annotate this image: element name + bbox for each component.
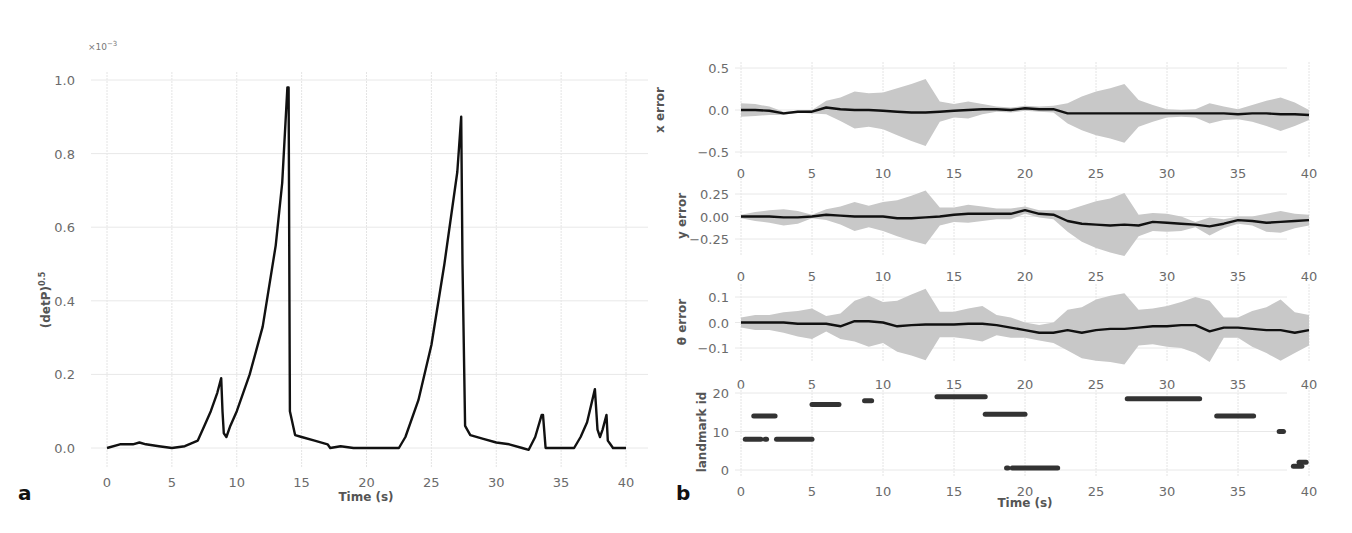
x-tick-label: 40 [1301, 377, 1318, 392]
panel-a-letter: a [18, 481, 32, 505]
x-tick-label: 10 [228, 475, 245, 490]
panel-a-tick-labels: 05101520253035400.00.20.40.60.81.0 [54, 73, 634, 490]
x-tick-label: 30 [1159, 269, 1176, 284]
panel-b-chart: 05101520253035400.50.0−0.505101520253035… [653, 61, 1317, 510]
x-tick-label: 5 [168, 475, 176, 490]
x-tick-label: 25 [1088, 484, 1105, 499]
panel-a-scale-note: ×10−3 [88, 40, 117, 52]
panel-b-theta-error-label: θ error [675, 299, 689, 346]
x-tick-label: 40 [618, 475, 635, 490]
panel-b-landmark-id-label: landmark id [695, 392, 709, 473]
y-tick-label: 10 [712, 425, 729, 440]
x-tick-label: 40 [1301, 269, 1318, 284]
y-tick-label: 1.0 [54, 73, 75, 88]
y-tick-label: 0.0 [708, 316, 729, 331]
x-tick-label: 35 [1230, 484, 1247, 499]
x-tick-label: 10 [875, 269, 892, 284]
x-tick-label: 5 [808, 377, 816, 392]
x-tick-label: 25 [1088, 269, 1105, 284]
panel-b-x-error-label: x error [653, 87, 667, 133]
x-tick-label: 35 [553, 475, 570, 490]
y-tick-label: 0.00 [700, 210, 729, 225]
x-tick-label: 30 [488, 475, 505, 490]
y-tick-label: 0.6 [54, 220, 75, 235]
x-tick-label: 35 [1230, 377, 1247, 392]
y-tick-label: 0 [721, 463, 729, 478]
x-tick-label: 40 [1301, 484, 1318, 499]
subplot-theta-error: 05101520253035400.10.0−0.1 [697, 284, 1317, 392]
y-tick-label: 0.25 [700, 187, 729, 202]
x-tick-label: 20 [1017, 269, 1034, 284]
x-tick-label: 0 [737, 269, 745, 284]
panel-a-grid [91, 72, 648, 468]
x-tick-label: 35 [1230, 269, 1247, 284]
x-tick-label: 10 [875, 377, 892, 392]
x-tick-label: 5 [808, 484, 816, 499]
panel-a-y-axis-label: (detP)0.5 [38, 271, 53, 328]
x-tick-label: 30 [1159, 377, 1176, 392]
figure: 05101520253035400.00.20.40.60.81.0 ×10−3… [0, 0, 1352, 533]
y-tick-label: 0.2 [54, 367, 75, 382]
panel-b-x-axis-label: Time (s) [997, 496, 1052, 510]
x-tick-label: 25 [423, 475, 440, 490]
x-tick-label: 20 [1017, 377, 1034, 392]
subplot-x-error: 05101520253035400.50.0−0.5 [697, 61, 1317, 181]
x-tick-label: 0 [103, 475, 111, 490]
x-tick-label: 0 [737, 377, 745, 392]
y-tick-label: −0.1 [697, 341, 729, 356]
panel-a-chart: 05101520253035400.00.20.40.60.81.0 ×10−3… [18, 40, 648, 505]
x-tick-label: 15 [293, 475, 310, 490]
y-tick-label: 0.0 [708, 103, 729, 118]
subplot-y-error: 05101520253035400.250.00−0.25 [689, 178, 1317, 284]
y-tick-label: 0.5 [708, 61, 729, 76]
x-tick-label: 25 [1088, 377, 1105, 392]
x-tick-label: 15 [946, 269, 963, 284]
x-tick-label: 30 [1159, 484, 1176, 499]
panel-b-y-error-label: y error [675, 193, 689, 239]
y-tick-label: 0.1 [708, 290, 729, 305]
subplot-landmark-id: 051015202530354020100 [712, 386, 1317, 499]
y-tick-label: 0.4 [54, 294, 75, 309]
x-tick-label: 10 [875, 484, 892, 499]
y-tick-label: −0.5 [697, 145, 729, 160]
panel-a-x-axis-label: Time (s) [338, 490, 393, 504]
panel-b-letter: b [676, 481, 690, 505]
x-tick-label: 15 [946, 484, 963, 499]
x-tick-label: 0 [737, 484, 745, 499]
y-tick-label: 0.0 [54, 441, 75, 456]
x-tick-label: 20 [358, 475, 375, 490]
y-tick-label: 20 [712, 386, 729, 401]
x-tick-label: 15 [946, 377, 963, 392]
y-tick-label: 0.8 [54, 147, 75, 162]
x-tick-label: 5 [808, 269, 816, 284]
y-tick-label: −0.25 [689, 232, 729, 247]
panel-b-subplots: 05101520253035400.50.0−0.505101520253035… [689, 61, 1317, 499]
